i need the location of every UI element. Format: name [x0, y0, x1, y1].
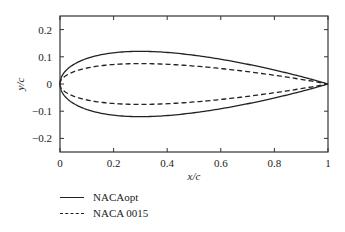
x-tick-label: 0 — [57, 157, 63, 169]
legend-item-nacaopt: NACAopt — [60, 189, 148, 205]
plot-frame — [60, 16, 328, 152]
x-axis-label: x/c — [187, 170, 201, 182]
curve-nacaopt — [60, 51, 328, 116]
x-tick-label: 0.6 — [214, 157, 228, 169]
axis-ticks — [60, 16, 328, 152]
curve-naca-0015 — [60, 64, 328, 105]
legend-item-naca0015: NACA 0015 — [60, 205, 148, 221]
y-tick-label: 0.1 — [38, 51, 52, 63]
x-tick-label: 1 — [325, 157, 331, 169]
dashed-line-swatch-icon — [60, 213, 84, 214]
airfoil-profile-chart: −0.2−0.100.10.2 00.20.40.60.81 x/c y/c — [0, 0, 345, 232]
legend-label: NACA 0015 — [93, 205, 148, 221]
x-tick-label: 0.2 — [107, 157, 121, 169]
y-tick-label: 0 — [47, 78, 53, 90]
y-tick-labels: −0.2−0.100.10.2 — [32, 24, 52, 145]
y-tick-label: 0.2 — [38, 24, 52, 36]
airfoil-curves — [60, 51, 328, 116]
x-tick-label: 0.8 — [268, 157, 282, 169]
legend-label: NACAopt — [93, 189, 138, 205]
solid-line-swatch-icon — [60, 197, 84, 198]
legend: NACAopt NACA 0015 — [60, 189, 148, 221]
x-tick-labels: 00.20.40.60.81 — [57, 157, 331, 169]
y-tick-label: −0.2 — [32, 132, 52, 144]
y-axis-label: y/c — [14, 77, 26, 91]
y-tick-label: −0.1 — [32, 105, 52, 117]
x-tick-label: 0.4 — [160, 157, 174, 169]
